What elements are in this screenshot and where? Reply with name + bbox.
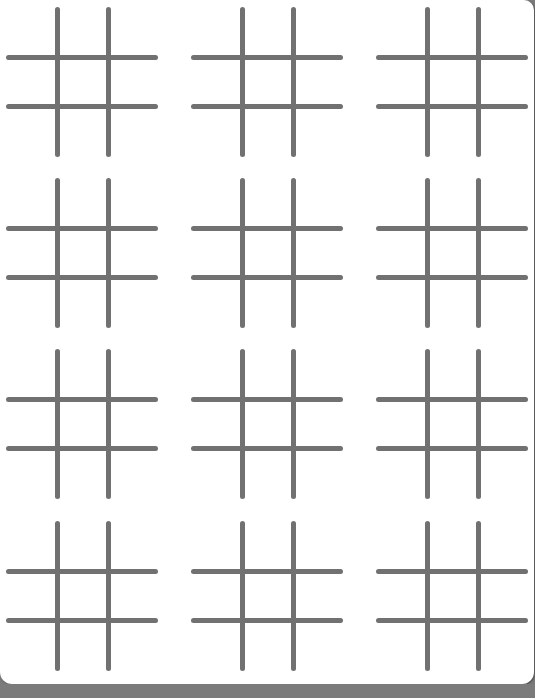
board-cell[interactable] — [6, 180, 52, 224]
board-cell[interactable] — [245, 280, 291, 324]
board-cell[interactable] — [60, 402, 106, 446]
board-cell[interactable] — [430, 9, 476, 53]
board-cell[interactable] — [430, 109, 476, 153]
board-cell[interactable] — [191, 280, 237, 324]
board-cell[interactable] — [6, 402, 52, 446]
board-cell[interactable] — [430, 280, 476, 324]
board-cell[interactable] — [430, 180, 476, 224]
board-cell[interactable] — [60, 280, 106, 324]
board-cell[interactable] — [296, 574, 342, 618]
board-cell[interactable] — [60, 60, 106, 104]
board-cell[interactable] — [111, 60, 157, 104]
board-cell[interactable] — [245, 231, 291, 275]
board-cell[interactable] — [111, 623, 157, 667]
board-cell[interactable] — [191, 451, 237, 495]
board-cell[interactable] — [481, 351, 527, 395]
board-cell[interactable] — [481, 574, 527, 618]
board-cell[interactable] — [191, 574, 237, 618]
board-cell[interactable] — [60, 180, 106, 224]
board-cell[interactable] — [111, 451, 157, 495]
board-cell[interactable] — [6, 109, 52, 153]
board-cell[interactable] — [296, 523, 342, 567]
board-cell[interactable] — [245, 623, 291, 667]
board-cell[interactable] — [6, 280, 52, 324]
board-cell[interactable] — [191, 60, 237, 104]
board-cell[interactable] — [481, 523, 527, 567]
board-cell[interactable] — [245, 402, 291, 446]
board-cell[interactable] — [60, 523, 106, 567]
board-cell[interactable] — [430, 60, 476, 104]
board-cell[interactable] — [296, 9, 342, 53]
board-cell[interactable] — [6, 523, 52, 567]
board-cell[interactable] — [60, 9, 106, 53]
board-cell[interactable] — [60, 231, 106, 275]
board-cell[interactable] — [376, 351, 422, 395]
board-cell[interactable] — [481, 623, 527, 667]
board-cell[interactable] — [245, 523, 291, 567]
board-cell[interactable] — [191, 523, 237, 567]
board-cell[interactable] — [6, 574, 52, 618]
board-cell[interactable] — [481, 451, 527, 495]
board-cell[interactable] — [60, 574, 106, 618]
board-cell[interactable] — [111, 574, 157, 618]
board-cell[interactable] — [296, 402, 342, 446]
board-cell[interactable] — [245, 180, 291, 224]
board-cell[interactable] — [111, 351, 157, 395]
board-cell[interactable] — [376, 109, 422, 153]
board-cell[interactable] — [296, 231, 342, 275]
board-cell[interactable] — [245, 351, 291, 395]
board-cell[interactable] — [6, 623, 52, 667]
board-cell[interactable] — [191, 109, 237, 153]
board-cell[interactable] — [376, 280, 422, 324]
board-cell[interactable] — [60, 351, 106, 395]
board-cell[interactable] — [111, 280, 157, 324]
board-cell[interactable] — [296, 280, 342, 324]
board-cell[interactable] — [376, 574, 422, 618]
board-cell[interactable] — [111, 9, 157, 53]
board-cell[interactable] — [481, 402, 527, 446]
board-cell[interactable] — [296, 451, 342, 495]
board-cell[interactable] — [376, 451, 422, 495]
board-cell[interactable] — [481, 231, 527, 275]
board-cell[interactable] — [245, 60, 291, 104]
board-cell[interactable] — [111, 180, 157, 224]
board-cell[interactable] — [60, 451, 106, 495]
board-cell[interactable] — [6, 9, 52, 53]
board-cell[interactable] — [111, 231, 157, 275]
board-cell[interactable] — [430, 623, 476, 667]
board-cell[interactable] — [191, 231, 237, 275]
board-cell[interactable] — [376, 523, 422, 567]
board-cell[interactable] — [296, 180, 342, 224]
board-cell[interactable] — [6, 451, 52, 495]
board-cell[interactable] — [6, 351, 52, 395]
board-cell[interactable] — [296, 60, 342, 104]
board-cell[interactable] — [191, 402, 237, 446]
board-cell[interactable] — [296, 351, 342, 395]
board-cell[interactable] — [376, 402, 422, 446]
board-cell[interactable] — [376, 9, 422, 53]
board-cell[interactable] — [6, 231, 52, 275]
board-cell[interactable] — [430, 231, 476, 275]
board-cell[interactable] — [430, 451, 476, 495]
board-cell[interactable] — [376, 623, 422, 667]
board-cell[interactable] — [376, 180, 422, 224]
board-cell[interactable] — [481, 180, 527, 224]
board-cell[interactable] — [245, 574, 291, 618]
board-cell[interactable] — [376, 60, 422, 104]
board-cell[interactable] — [191, 9, 237, 53]
board-cell[interactable] — [481, 280, 527, 324]
board-cell[interactable] — [60, 109, 106, 153]
board-cell[interactable] — [430, 402, 476, 446]
board-cell[interactable] — [6, 60, 52, 104]
board-cell[interactable] — [481, 60, 527, 104]
board-cell[interactable] — [245, 451, 291, 495]
board-cell[interactable] — [376, 231, 422, 275]
board-cell[interactable] — [481, 109, 527, 153]
board-cell[interactable] — [430, 523, 476, 567]
board-cell[interactable] — [296, 109, 342, 153]
board-cell[interactable] — [111, 109, 157, 153]
board-cell[interactable] — [111, 402, 157, 446]
board-cell[interactable] — [481, 9, 527, 53]
board-cell[interactable] — [245, 9, 291, 53]
board-cell[interactable] — [191, 623, 237, 667]
